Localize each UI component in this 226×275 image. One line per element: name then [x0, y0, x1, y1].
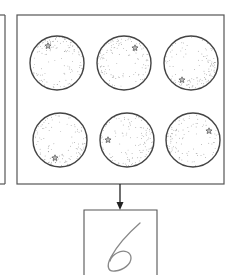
diagram-stage: [0, 0, 226, 275]
star-icon: [105, 137, 111, 143]
dish-outline: [166, 113, 220, 167]
star-icon: [52, 155, 58, 161]
main-frame: [17, 15, 224, 184]
petri-dish-2: [97, 36, 151, 90]
down-arrow-icon: [117, 184, 124, 210]
handwritten-digit-six: [108, 223, 140, 271]
circle-grid: [30, 36, 220, 167]
petri-dish-1: [30, 36, 84, 90]
dish-outline: [30, 36, 84, 90]
petri-dish-5: [100, 113, 154, 167]
star-icon: [132, 45, 138, 51]
petri-dish-6: [166, 113, 220, 167]
left-panel-edge: [0, 15, 5, 184]
petri-dish-4: [33, 113, 87, 167]
diagram-canvas: [0, 0, 226, 275]
petri-dish-3: [164, 36, 218, 90]
star-icon: [179, 77, 185, 83]
output-digit-box: [84, 210, 157, 275]
arrow-head: [117, 202, 124, 210]
dish-outline: [97, 36, 151, 90]
frame-border: [17, 15, 224, 184]
star-icon: [45, 43, 51, 49]
star-icon: [206, 128, 212, 134]
